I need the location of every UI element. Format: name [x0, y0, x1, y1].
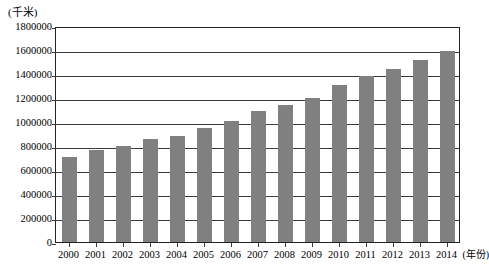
y-tick-label: 400000 — [21, 190, 53, 200]
x-tick-mark — [258, 243, 259, 247]
x-tick-mark — [447, 243, 448, 247]
x-tick-mark — [177, 243, 178, 247]
bar — [413, 60, 429, 242]
x-tick-label: 2010 — [328, 249, 349, 261]
y-tick-label: 1400000 — [15, 70, 52, 80]
bar — [116, 146, 132, 242]
y-tick-label: 600000 — [21, 166, 53, 176]
y-tick-label: 1800000 — [15, 22, 52, 32]
bar — [89, 150, 105, 242]
bar — [440, 51, 456, 242]
x-tick-mark — [312, 243, 313, 247]
y-tick-label: 1000000 — [15, 118, 52, 128]
x-tick-mark — [366, 243, 367, 247]
x-tick-label: 2001 — [85, 249, 106, 261]
x-tick-mark — [231, 243, 232, 247]
bar — [170, 136, 186, 242]
x-tick-mark — [150, 243, 151, 247]
x-tick-mark — [285, 243, 286, 247]
y-axis-unit-label: (千米) — [8, 3, 37, 19]
bar — [386, 69, 402, 242]
x-tick-mark — [69, 243, 70, 247]
y-tick-label: 800000 — [21, 142, 53, 152]
x-axis: (年份) 20002001200220032004200520062007200… — [55, 243, 460, 273]
x-tick-label: 2006 — [220, 249, 241, 261]
bars-layer — [56, 28, 459, 242]
x-tick-label: 2012 — [382, 249, 403, 261]
x-tick-mark — [339, 243, 340, 247]
x-tick-label: 2013 — [409, 249, 430, 261]
bar — [332, 85, 348, 242]
bar — [359, 76, 375, 242]
bar — [278, 105, 294, 242]
x-tick-label: 2014 — [436, 249, 457, 261]
bar — [62, 157, 78, 242]
x-tick-label: 2003 — [139, 249, 160, 261]
y-tick-label: 0 — [47, 238, 52, 248]
x-tick-label: 2009 — [301, 249, 322, 261]
x-tick-label: 2002 — [112, 249, 133, 261]
x-tick-mark — [420, 243, 421, 247]
x-tick-mark — [204, 243, 205, 247]
x-tick-mark — [393, 243, 394, 247]
y-tick-label: 1200000 — [15, 94, 52, 104]
x-tick-label: 2011 — [355, 249, 376, 261]
bar — [251, 111, 267, 242]
x-tick-mark — [96, 243, 97, 247]
y-tick-label: 200000 — [21, 214, 53, 224]
x-tick-label: 2004 — [166, 249, 187, 261]
x-axis-title: (年份) — [463, 249, 489, 261]
x-tick-label: 2000 — [58, 249, 79, 261]
x-tick-label: 2005 — [193, 249, 214, 261]
plot-area — [55, 27, 460, 243]
x-tick-mark — [123, 243, 124, 247]
bar — [305, 98, 321, 242]
bar — [224, 121, 240, 242]
y-tick-label: 1600000 — [15, 46, 52, 56]
x-tick-label: 2007 — [247, 249, 268, 261]
bar — [143, 139, 159, 242]
bar — [197, 128, 213, 242]
x-tick-label: 2008 — [274, 249, 295, 261]
